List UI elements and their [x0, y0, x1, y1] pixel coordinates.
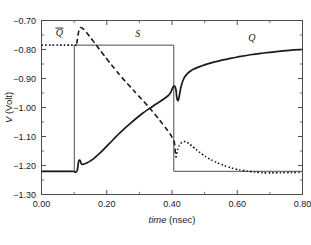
- curve-label-s: S: [135, 28, 140, 39]
- y-axis-title: V (Volt): [3, 92, 14, 123]
- y-tick-label: −0.90: [13, 74, 36, 84]
- chart-canvas: 0.000.200.400.600.80−0.70−0.80−0.90−1.00…: [0, 0, 311, 245]
- y-tick-label: −1.20: [13, 161, 36, 171]
- y-tick-label: −0.70: [13, 16, 36, 26]
- x-tick-label: 0.60: [228, 199, 246, 209]
- x-tick-label: 0.20: [98, 199, 116, 209]
- y-tick-label: −0.80: [13, 45, 36, 55]
- x-tick-label: 0.80: [294, 199, 311, 209]
- curve-label-qbar: Q: [56, 27, 64, 38]
- y-tick-label: −1.00: [13, 103, 36, 113]
- figure-chart-voltage-vs-time: 0.000.200.400.600.80−0.70−0.80−0.90−1.00…: [0, 0, 311, 245]
- curve-label-q: Q: [248, 32, 256, 43]
- x-axis-title: time (nsec): [149, 214, 196, 225]
- x-tick-label: 0.40: [163, 199, 181, 209]
- y-tick-label: −1.30: [13, 190, 36, 200]
- x-tick-label: 0.00: [33, 199, 51, 209]
- y-tick-label: −1.10: [13, 132, 36, 142]
